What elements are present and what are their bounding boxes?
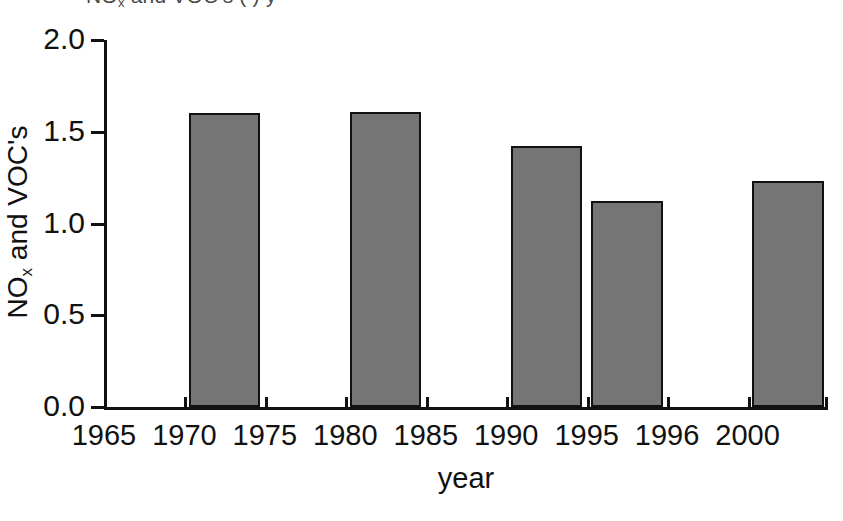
bar-1995 [591, 201, 663, 407]
y-axis-tick [91, 39, 104, 42]
y-axis-tick [91, 406, 104, 409]
y-axis-line [104, 40, 107, 410]
chart-title-text: NOx and VOC's ( ) y [86, 0, 277, 8]
chart-title-subscript: x [118, 0, 125, 10]
x-tick-label: 1985 [386, 421, 466, 450]
chart-title-clipped: NOx and VOC's ( ) y [0, 0, 843, 13]
y-axis-title-rest: and VOC's [2, 126, 33, 268]
chart-title-rest: and VOC's ( ) y [125, 0, 277, 7]
y-axis-title-subscript: x [17, 268, 36, 277]
chart-title-main: NO [86, 0, 118, 7]
x-tick-label: 1965 [64, 421, 144, 450]
x-tick-label: 1970 [144, 421, 224, 450]
x-tick-label: 1996 [627, 421, 707, 450]
x-axis-tick [345, 397, 348, 410]
x-tick-label: 2000 [707, 421, 787, 450]
y-axis-tick [91, 314, 104, 317]
x-axis-tick [825, 397, 828, 410]
x-axis-tick [587, 397, 590, 410]
x-axis-tick [506, 397, 509, 410]
x-tick-label: 1975 [225, 421, 305, 450]
x-axis-tick [104, 397, 107, 410]
x-tick-label: 1990 [466, 421, 546, 450]
x-axis-tick [426, 397, 429, 410]
x-axis-title: year [104, 462, 828, 494]
x-axis-tick [184, 397, 187, 410]
y-axis-tick [91, 223, 104, 226]
chart-figure: NOx and VOC's ( ) y NOx and VOC's 0.00.5… [0, 0, 843, 521]
bar-1980 [350, 112, 422, 407]
x-axis-tick [265, 397, 268, 410]
x-tick-label: 1980 [305, 421, 385, 450]
y-tick-label: 0.0 [11, 391, 85, 421]
y-tick-label: 2.0 [11, 24, 85, 54]
bar-1990 [511, 146, 583, 407]
plot-area [104, 40, 828, 410]
y-tick-label: 1.0 [11, 208, 85, 238]
y-tick-label: 1.5 [11, 116, 85, 146]
bar-2000 [752, 181, 824, 407]
x-axis-tick [667, 397, 670, 410]
bar-1970 [189, 113, 261, 407]
y-tick-label: 0.5 [11, 299, 85, 329]
y-axis-tick [91, 131, 104, 134]
x-axis-tick [748, 397, 751, 410]
x-tick-label: 1995 [546, 421, 626, 450]
x-axis-line [104, 407, 828, 410]
